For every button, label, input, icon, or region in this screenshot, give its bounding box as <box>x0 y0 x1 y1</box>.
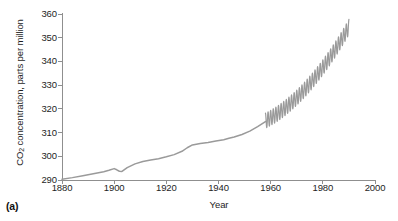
data-series <box>62 19 349 179</box>
chart-canvas <box>0 0 398 221</box>
series-line-mauna-loa <box>265 19 348 127</box>
axis-ticks <box>58 14 375 184</box>
axis-lines <box>62 13 375 180</box>
figure-panel-a: 290300310320330340350360 188019001920194… <box>0 0 398 221</box>
series-line-ice-core <box>62 122 265 180</box>
